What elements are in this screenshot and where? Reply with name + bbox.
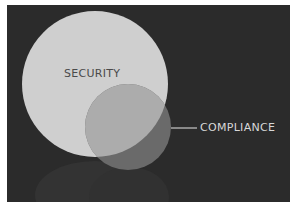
venn-diagram xyxy=(7,5,290,202)
security-label: SECURITY xyxy=(64,68,120,79)
compliance-label: COMPLIANCE xyxy=(200,122,275,133)
diagram-panel: SECURITY COMPLIANCE xyxy=(7,5,290,202)
